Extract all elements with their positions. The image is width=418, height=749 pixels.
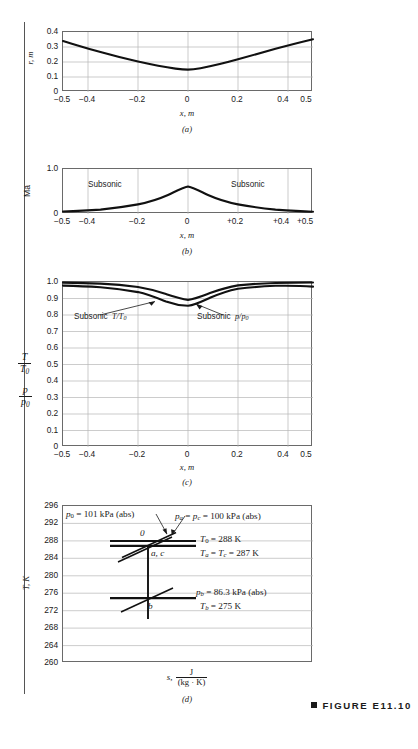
panel-c-ytick-8: 0.2 [36,408,58,418]
panel-a-x-axis-label: x, m [62,108,312,118]
panel-d-annotation-p0: p0 = 101 kPa (abs) [66,509,134,519]
panel-c-ytick-2: 0.8 [36,309,58,319]
figure-caption: FIGURE E11.10 [311,700,412,711]
panel-b-xtick-2: −0.2 [126,216,148,226]
panel-a-label: (a) [62,124,312,134]
panel-d-annotation-Ta-Tc: Ta = Tc = 287 K [200,548,259,558]
panel-a-xtick-0: −0.5 [51,94,73,104]
panel-a-xtick-3: 0 [176,94,198,104]
panel-c-xtick-5: 0.4 [272,449,294,459]
panel-c-chart [63,282,313,447]
panel-a-chart [63,32,313,92]
panel-c-x-axis-label: x, m [62,462,312,472]
panel-b-chart [63,169,313,214]
panel-d-ytick-2: 288 [33,535,58,545]
panel-b-xtick-5: +0.4 [268,216,294,226]
panel-b-ytick-0: 1.0 [38,163,58,173]
panel-d-ytick-9: 260 [33,657,58,667]
panel-c-xtick-3: 0 [176,449,198,459]
panel-b-xtick-4: +0.2 [222,216,248,226]
panel-d-y-axis-label-text: T, K [21,576,31,590]
panel-b-xtick-1: −0.4 [76,216,98,226]
panel-d-ytick-7: 268 [33,622,58,632]
panel-d-ytick-5: 276 [33,587,58,597]
panel-a-ytick-3: 0.1 [38,71,58,81]
grid-lines [63,32,313,92]
panel-d-ytick-6: 272 [33,605,58,615]
panel-c-ytick-4: 0.6 [36,342,58,352]
panel-d-x-axis-label: s, J (kg · K) [62,668,312,688]
panel-a-xtick-1: −0.4 [76,94,98,104]
panel-b-y-axis-label: Ma [22,176,32,206]
panel-d-x-axis-num: J [176,668,208,677]
panel-c-ytick-9: 0.1 [36,425,58,435]
panel-c-annotation-subsonic-temperature: Subsonic T/T0 [74,312,126,321]
panel-d-annotation-pb: pb = 86.3 kPa (abs) [196,587,267,597]
panel-c-label: (c) [62,477,312,487]
panel-d-annotation-Tb: Tb = 275 K [200,601,241,611]
panel-a-xtick-6: 0.5 [295,94,317,104]
panel-d-label: (d) [62,694,312,704]
panel-b-plot-area [62,168,312,213]
panel-d-ytick-1: 292 [33,517,58,527]
panel-c-ytick-6: 0.4 [36,375,58,385]
panel-d-annotation-T0: T0 = 288 K [200,534,241,544]
square-bullet-icon [311,702,317,708]
panel-d-state-point-ac: a, c [151,548,164,558]
panel-a-ytick-0: 0.4 [38,26,58,36]
panel-b-annotation-subsonic-right: Subsonic [231,180,265,189]
panel-c-ytick-3: 0.7 [36,326,58,336]
panel-c-annot-T-text: Subsonic [74,312,108,321]
panel-a-xtick-5: 0.4 [272,94,294,104]
panel-c-xtick-4: 0.2 [226,449,248,459]
panel-c-ylabel-T-num: T [18,352,31,363]
panel-b-xtick-3: 0 [176,216,198,226]
panel-a-xtick-2: −0.2 [126,94,148,104]
panel-d-ytick-8: 264 [33,640,58,650]
panel-b-x-axis-label: x, m [62,230,312,240]
panel-d-ytick-4: 280 [33,570,58,580]
panel-d-x-axis-den: (kg · K) [176,677,208,687]
figure-caption-text: FIGURE E11.10 [322,700,412,711]
panel-a-ytick-1: 0.3 [38,41,58,51]
panel-c-plot-area [62,281,312,446]
panel-c-ylabel-T-den: T0 [18,363,31,376]
panel-b-xtick-6: +0.5 [292,216,318,226]
panel-c-y-axis-label-temperature: T T0 [18,352,31,375]
panel-c-ytick-1: 0.9 [36,293,58,303]
panel-c-y-axis-label-pressure: p p0 [19,385,32,408]
panel-a-ytick-2: 0.2 [38,56,58,66]
panel-a-y-axis-label: r, m [25,43,35,73]
panel-d-state-point-0: 0 [140,528,145,538]
panel-d-y-axis-label: T, K [21,566,31,600]
panel-c-ytick-5: 0.5 [36,359,58,369]
panel-b-label: (b) [62,246,312,256]
panel-b-xtick-0: −0.5 [51,216,73,226]
panel-c-ylabel-p-den: p0 [19,396,32,409]
panel-c-xtick-6: 0.5 [295,449,317,459]
panel-a-plot-area [62,31,312,91]
panel-c-ytick-7: 0.3 [36,392,58,402]
panel-b-annotation-subsonic-left: Subsonic [88,180,122,189]
panel-d-x-axis-var: s, [167,672,173,682]
panel-c-ylabel-p-num: p [19,385,32,396]
panel-c-xtick-0: −0.5 [51,449,73,459]
panel-d-ytick-3: 284 [33,552,58,562]
panel-d-annotation-pa-pc: pa = pc = 100 kPa (abs) [175,511,261,521]
panel-d-state-point-b: b [148,601,153,611]
isobar-pb [121,588,173,612]
leader-arrowheads [149,302,203,310]
panel-c-xtick-2: −0.2 [126,449,148,459]
panel-c-annot-p-curve: p/p0 [233,312,249,321]
panel-c-ytick-0: 1.0 [36,276,58,286]
panel-a-xtick-4: 0.2 [226,94,248,104]
panel-c-annotation-subsonic-pressure: Subsonic p/p0 [197,312,249,321]
panel-d-plot-area [62,505,312,662]
panel-d-ytick-0: 296 [33,500,58,510]
panel-c-annot-T-curve: T/T0 [110,312,126,321]
panel-d-chart [63,506,313,663]
panel-c-xtick-1: −0.4 [76,449,98,459]
panel-c-annot-p-text: Subsonic [197,312,231,321]
